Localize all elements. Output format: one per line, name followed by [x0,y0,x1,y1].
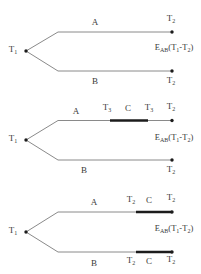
panel3-path-b-line [26,232,172,252]
panel2-clock-end-label: T3 [145,103,154,113]
panel1-path-b-line [26,51,172,71]
panel2-path-b-line [26,140,172,160]
panel3-path-a-line [26,212,172,232]
panel1-path-a-line [26,32,172,51]
panel2-clock-start-label: T3 [103,103,112,113]
panel2-clock-label: C [125,104,131,113]
panel1-detector-a-dot [170,30,173,33]
panel3-detector-b-label: T2 [167,255,176,265]
panel1-correlation-label: EAB(T1-T2) [155,43,193,53]
panel2-detector-a-label: T2 [167,102,176,112]
panel2-detector-b-dot [170,158,173,161]
panel1-path-b-label: B [92,77,98,86]
panel3-detector-a-dot [170,210,173,213]
panel1-source-label: T1 [9,45,18,55]
panel3-source-dot [24,230,27,233]
panel3-clock-b-label: C [146,257,152,266]
panel3-clock-a-start-label: T2 [127,195,136,205]
panel2-source-dot [24,138,27,141]
panel2-geometry [24,119,173,162]
panel1-detector-a-label: T2 [167,14,176,24]
panel3-detector-b-dot [170,250,173,253]
panel3-correlation-label: EAB(T1-T2) [155,224,193,234]
figure-canvas: T1 A T2 EAB(T1-T2) B T2 T1 A T3 C T3 T2 … [0,0,201,274]
panel1-source-dot [24,49,27,52]
panel2-path-a-line [26,121,172,141]
panel2-path-a-label: A [73,107,80,116]
panel2-correlation-label: EAB(T1-T2) [155,133,193,143]
panel2-source-label: T1 [9,134,18,144]
panel1-detector-b-dot [170,69,173,72]
panel2-path-b-label: B [81,166,87,175]
panel3-detector-a-label: T2 [167,193,176,203]
panel3-path-b-label: B [91,259,97,268]
panel3-clock-a-label: C [146,196,152,205]
panel1-geometry [24,30,173,72]
panel3-geometry [24,210,173,253]
panel2-detector-b-label: T2 [167,165,176,175]
panel3-path-a-label: A [91,198,98,207]
panel3-source-label: T1 [9,226,18,236]
panel1-path-a-label: A [92,18,99,27]
panel2-detector-a-dot [170,119,173,122]
panel3-clock-b-start-label: T2 [127,256,136,266]
panel1-detector-b-label: T2 [167,76,176,86]
